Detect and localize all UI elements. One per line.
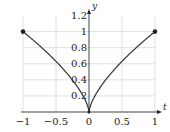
x-tick-label: −0.5 bbox=[44, 116, 68, 127]
axes bbox=[21, 9, 162, 114]
line-chart: −1−0.500.510.20.40.60.811.2 t y bbox=[0, 0, 170, 132]
x-tick-label: 0.5 bbox=[114, 116, 130, 127]
y-tick-label: 0.8 bbox=[71, 42, 87, 53]
x-axis-label: t bbox=[163, 102, 167, 112]
y-tick-label: 0.6 bbox=[71, 58, 87, 69]
y-tick-label: 1.2 bbox=[71, 10, 87, 21]
x-tick-label: 0 bbox=[86, 116, 92, 127]
x-axis-arrow-icon bbox=[157, 110, 162, 114]
point-marker bbox=[88, 111, 91, 114]
x-tick-label: 1 bbox=[152, 116, 158, 127]
y-tick-label: 1 bbox=[81, 26, 87, 37]
point-marker bbox=[21, 29, 26, 34]
y-axis-arrow-icon bbox=[87, 9, 91, 14]
tick-labels: −1−0.500.510.20.40.60.811.2 bbox=[16, 10, 159, 127]
point-marker bbox=[153, 29, 158, 34]
y-tick-label: 0.4 bbox=[71, 74, 87, 85]
y-axis-label: y bbox=[91, 1, 98, 11]
x-tick-label: −1 bbox=[16, 116, 31, 127]
